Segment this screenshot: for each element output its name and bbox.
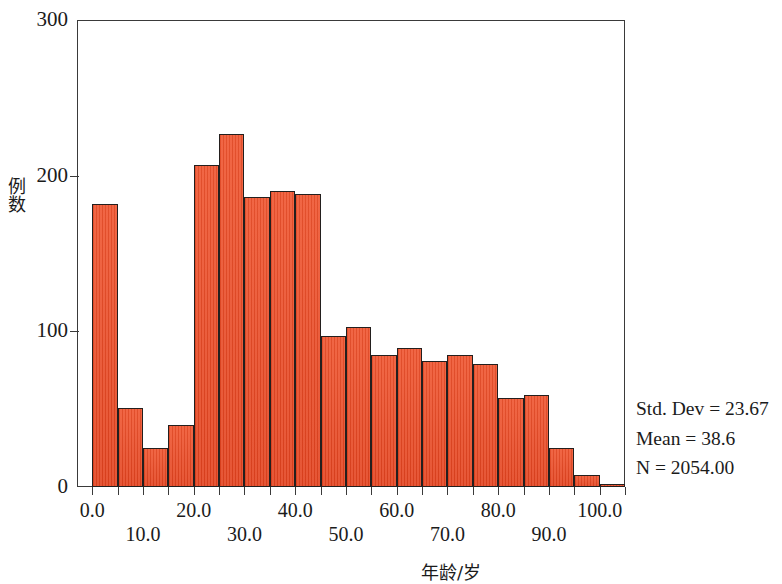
histogram-bar: [346, 327, 371, 487]
x-axis-tick: [447, 487, 448, 495]
x-axis-tick: [473, 487, 474, 495]
histogram-bar: [295, 194, 320, 487]
histogram-bar: [498, 398, 523, 487]
x-axis-tick: [168, 487, 169, 495]
x-axis-tick-label: 0.0: [80, 500, 105, 520]
histogram-bar: [143, 448, 168, 487]
x-axis-tick: [600, 487, 601, 495]
histogram-bar: [600, 484, 625, 487]
x-axis-title: 年龄/岁: [0, 558, 782, 584]
x-axis-tick: [321, 487, 322, 495]
x-axis-tick: [549, 487, 550, 495]
x-axis-tick-label: 10.0: [125, 524, 160, 544]
x-axis-tick-label: 90.0: [531, 524, 566, 544]
histogram-bar: [447, 355, 472, 487]
histogram-bar: [524, 395, 549, 487]
histogram-bar: [219, 134, 244, 487]
x-axis-tick: [143, 487, 144, 495]
x-axis-tick: [498, 487, 499, 495]
x-axis-tick: [194, 487, 195, 495]
x-axis-tick: [524, 487, 525, 495]
histogram-figure: 0100200300 例数 0.020.040.060.080.0100.010…: [0, 0, 782, 584]
histogram-bar: [118, 408, 143, 487]
x-axis-tick: [625, 487, 626, 495]
histogram-bar: [321, 336, 346, 487]
x-axis-tick: [219, 487, 220, 495]
x-axis-tick-label: 50.0: [328, 524, 363, 544]
x-axis-tick-label: 80.0: [481, 500, 516, 520]
y-axis-tick-label: 300: [8, 9, 68, 30]
histogram-bar: [473, 364, 498, 487]
x-axis-tick-label: 30.0: [227, 524, 262, 544]
histogram-bars: [77, 20, 625, 487]
x-axis-tick-label: 40.0: [278, 500, 313, 520]
y-axis-tick: [70, 331, 79, 332]
stat-mean: Mean = 38.6: [636, 424, 782, 454]
histogram-bar: [371, 355, 396, 487]
stats-annotation: Std. Dev = 23.67 Mean = 38.6 N = 2054.00: [636, 394, 782, 483]
histogram-bar: [549, 448, 574, 487]
histogram-bar: [270, 191, 295, 487]
histogram-bar: [194, 165, 219, 487]
x-axis-tick: [92, 487, 93, 495]
y-axis-title: 例数: [2, 178, 32, 215]
x-axis-tick-label: 100.0: [577, 500, 622, 520]
x-axis-tick: [422, 487, 423, 495]
x-axis-tick: [346, 487, 347, 495]
histogram-bar: [422, 361, 447, 487]
x-axis-tick-label: 70.0: [430, 524, 465, 544]
histogram-bar: [397, 348, 422, 487]
x-axis-tick: [270, 487, 271, 495]
histogram-bar: [574, 475, 599, 487]
x-axis-tick-label: 20.0: [176, 500, 211, 520]
y-axis-tick-label: 0: [8, 476, 68, 497]
histogram-bar: [92, 204, 117, 487]
histogram-bar: [244, 197, 269, 487]
stat-std-dev: Std. Dev = 23.67: [636, 394, 782, 424]
stat-n: N = 2054.00: [636, 453, 782, 483]
x-axis-tick-label: 60.0: [379, 500, 414, 520]
x-axis-tick: [574, 487, 575, 495]
x-axis-tick: [244, 487, 245, 495]
x-axis-tick: [295, 487, 296, 495]
y-axis-tick-label: 100: [8, 320, 68, 341]
x-axis-tick: [371, 487, 372, 495]
y-axis-tick: [70, 176, 79, 177]
x-axis-tick: [397, 487, 398, 495]
x-axis-tick: [118, 487, 119, 495]
histogram-bar: [168, 425, 193, 487]
